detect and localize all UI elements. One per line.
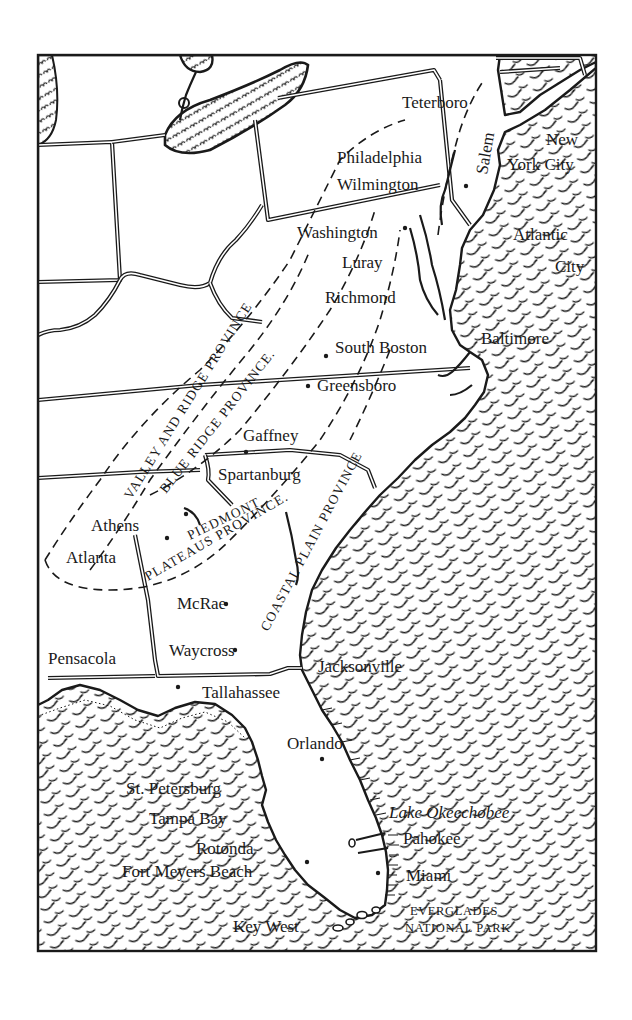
label-atlantic: Atlantic	[513, 225, 568, 244]
label-wilmington: Wilmington	[337, 175, 419, 194]
label-waycross: Waycross	[169, 641, 235, 660]
label-atlanta: Atlanta	[66, 548, 116, 567]
label-philadelphia: Philadelphia	[337, 148, 422, 167]
label-orlando: Orlando	[287, 734, 343, 753]
label-gaffney: Gaffney	[243, 426, 299, 445]
label-spartanburg: Spartanburg	[218, 465, 301, 484]
label-tampa-bay: Tampa Bay	[149, 809, 227, 828]
label-athens: Athens	[91, 516, 139, 535]
label-south-boston: South Boston	[335, 338, 428, 357]
label-new-york-2: York City	[507, 155, 574, 174]
label-jacksonville: Jacksonville	[318, 657, 402, 676]
label-st-petersburg: St. Petersburg	[126, 779, 222, 798]
label-lake-okeechobee: Lake Okeechobee	[388, 803, 510, 822]
label-rotonda: Rotonda	[196, 839, 254, 858]
label-greensboro: Greensboro	[317, 376, 396, 395]
label-fort-meyers-beach: Fort Meyers Beach	[122, 862, 253, 881]
label-tallahassee: Tallahassee	[202, 683, 280, 702]
label-pahokee: Pahokee	[403, 829, 461, 848]
label-baltimore: Baltimore	[481, 329, 549, 348]
label-luray: Luray	[342, 253, 383, 272]
eastern-us-physiographic-map: Teterboro New York City Philadelphia Wil…	[0, 0, 632, 1020]
label-city: City	[555, 257, 585, 276]
label-everglades: EVERGLADES	[410, 904, 498, 918]
label-teterboro: Teterboro	[402, 93, 468, 112]
label-richmond: Richmond	[325, 288, 396, 307]
label-mcrae: McRae	[177, 594, 226, 613]
label-miami: Miami	[406, 866, 452, 885]
label-key-west: Key West	[233, 917, 299, 936]
label-national-park: NATIONAL PARK	[405, 921, 511, 935]
label-pensacola: Pensacola	[48, 649, 116, 668]
label-washington: Washington	[297, 223, 378, 242]
label-new-york-1: New	[546, 130, 579, 149]
lake-okeechobee	[349, 839, 355, 847]
